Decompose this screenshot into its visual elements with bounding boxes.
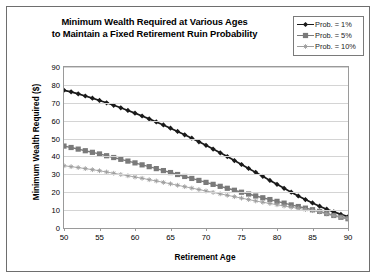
y-tick-label: 80 <box>52 80 60 89</box>
data-point-marker <box>83 148 88 153</box>
data-point-marker <box>140 113 145 118</box>
data-point-marker <box>69 164 74 169</box>
x-tick-mark <box>277 228 278 231</box>
data-point-marker <box>182 132 187 137</box>
data-point-marker <box>260 200 265 205</box>
series-layer <box>64 67 348 228</box>
chart-frame: Minimum Wealth Required at Various Ages … <box>6 6 370 272</box>
data-point-marker <box>90 96 95 101</box>
data-point-marker <box>197 187 202 192</box>
data-point-marker <box>83 93 88 98</box>
x-tick-label: 55 <box>95 233 104 242</box>
data-point-marker <box>69 89 74 94</box>
x-tick-label: 60 <box>131 233 140 242</box>
data-point-marker <box>154 166 159 171</box>
data-point-marker <box>147 164 152 169</box>
legend-marker-icon <box>296 41 315 52</box>
x-tick-label: 85 <box>308 233 317 242</box>
legend-label: Prob. = 10% <box>315 42 356 51</box>
data-point-marker <box>253 193 258 198</box>
data-point-marker <box>175 183 180 188</box>
data-point-marker <box>154 179 159 184</box>
y-tick-label: 20 <box>52 188 60 197</box>
legend-marker-icon <box>296 19 315 30</box>
data-point-marker <box>196 178 201 183</box>
data-point-marker <box>203 180 208 185</box>
data-point-marker <box>218 184 223 189</box>
data-point-marker <box>168 181 173 186</box>
data-point-marker <box>232 194 237 199</box>
y-gridline <box>64 67 348 68</box>
data-point-marker <box>161 180 166 185</box>
chart-title-line-1: Minimum Wealth Required at Various Ages <box>37 16 272 28</box>
y-gridline <box>64 174 348 175</box>
data-point-marker <box>275 202 280 207</box>
data-point-marker <box>339 215 344 220</box>
y-tick-label: 0 <box>56 224 60 233</box>
chart-title: Minimum Wealth Required at Various Ages … <box>37 16 272 41</box>
legend-label: Prob. = 5% <box>315 31 352 40</box>
data-point-marker <box>268 201 273 206</box>
x-tick-label: 50 <box>60 233 69 242</box>
data-point-marker <box>225 193 230 198</box>
data-point-marker <box>140 176 145 181</box>
x-tick-mark <box>100 228 101 231</box>
data-point-marker <box>168 126 173 131</box>
x-tick-mark <box>171 228 172 231</box>
data-point-marker <box>253 199 258 204</box>
y-tick-label: 90 <box>52 63 60 72</box>
y-tick-label: 10 <box>52 206 60 215</box>
data-point-marker <box>125 158 130 163</box>
legend-marker-icon <box>296 30 315 41</box>
data-point-marker <box>64 163 66 168</box>
chart-container: Minimum Wealth Required at Various Ages … <box>7 7 371 273</box>
data-point-marker <box>182 184 187 189</box>
data-point-marker <box>90 167 95 172</box>
legend-label: Prob. = 1% <box>315 20 352 29</box>
data-point-marker <box>147 177 152 182</box>
y-gridline <box>64 85 348 86</box>
data-point-marker <box>140 162 145 167</box>
y-gridline <box>64 156 348 157</box>
data-point-marker <box>118 157 123 162</box>
data-point-marker <box>133 175 138 180</box>
data-point-marker <box>69 145 74 150</box>
data-point-marker <box>324 211 329 216</box>
x-tick-label: 65 <box>166 233 175 242</box>
x-tick-label: 75 <box>237 233 246 242</box>
data-point-marker <box>97 168 102 173</box>
data-point-marker <box>161 122 166 127</box>
x-tick-mark <box>242 228 243 231</box>
data-point-marker <box>225 186 230 191</box>
x-tick-mark <box>135 228 136 231</box>
y-tick-label: 60 <box>52 116 60 125</box>
chart-legend: Prob. = 1%Prob. = 5%Prob. = 10% <box>293 16 364 56</box>
x-axis-title: Retirement Age <box>63 252 347 262</box>
y-gridline <box>64 210 348 211</box>
y-tick-label: 30 <box>52 170 60 179</box>
x-tick-mark <box>206 228 207 231</box>
data-point-marker <box>76 165 81 170</box>
data-point-marker <box>90 150 95 155</box>
data-point-marker <box>132 111 137 116</box>
data-point-marker <box>125 108 130 113</box>
data-point-marker <box>175 129 180 134</box>
y-gridline <box>64 121 348 122</box>
data-point-marker <box>76 91 81 96</box>
data-point-marker <box>239 196 244 201</box>
data-point-marker <box>211 182 216 187</box>
data-point-marker <box>76 147 81 152</box>
data-point-marker <box>161 168 166 173</box>
data-point-marker <box>189 186 194 191</box>
y-gridline <box>64 139 348 140</box>
data-point-marker <box>310 200 315 205</box>
x-tick-mark <box>348 228 349 231</box>
x-tick-label: 90 <box>344 233 353 242</box>
y-tick-label: 70 <box>52 98 60 107</box>
x-tick-label: 70 <box>202 233 211 242</box>
legend-item-2: Prob. = 5% <box>296 30 361 41</box>
y-tick-label: 50 <box>52 134 60 143</box>
chart-title-line-2: to Maintain a Fixed Retirement Ruin Prob… <box>37 28 272 40</box>
data-point-marker <box>83 166 88 171</box>
data-point-marker <box>189 176 194 181</box>
